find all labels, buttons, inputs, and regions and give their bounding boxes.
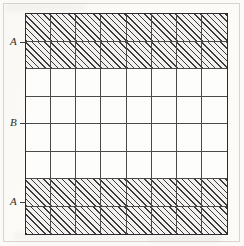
grid-cell <box>152 97 177 125</box>
label-tick-b-middle <box>20 123 26 124</box>
grid-cell <box>101 69 126 97</box>
grid-cell <box>101 152 126 180</box>
label-tick-a-top <box>20 42 26 43</box>
grid-cell <box>177 207 202 235</box>
grid-cell <box>202 69 227 97</box>
grid-cell <box>101 207 126 235</box>
grid-cell <box>177 97 202 125</box>
grid-cell <box>152 207 177 235</box>
grid-cell <box>51 97 76 125</box>
grid-cell <box>152 42 177 70</box>
grid-cell <box>26 152 51 180</box>
grid-cell <box>177 124 202 152</box>
grid-cell <box>202 207 227 235</box>
grid-cell <box>202 97 227 125</box>
grid-cell <box>127 124 152 152</box>
grid-cell <box>101 124 126 152</box>
grid-cell <box>101 42 126 70</box>
grid-cell <box>26 97 51 125</box>
grid-cell <box>127 152 152 180</box>
grid-cell <box>51 14 76 42</box>
grid-cell <box>76 42 101 70</box>
grid-cell <box>76 152 101 180</box>
grid-cell <box>76 14 101 42</box>
grid-cell <box>152 124 177 152</box>
grid-cell <box>127 97 152 125</box>
grid-cell <box>202 152 227 180</box>
grid-cell <box>152 179 177 207</box>
grid-cell <box>26 42 51 70</box>
grid-cell <box>76 124 101 152</box>
grid-cell <box>51 42 76 70</box>
hatched-grid <box>25 13 228 235</box>
grid-cell <box>51 152 76 180</box>
label-tick-a-bottom <box>20 202 26 203</box>
grid-cell <box>152 152 177 180</box>
grid-cell <box>101 179 126 207</box>
grid-cell <box>127 179 152 207</box>
grid-cell <box>51 207 76 235</box>
grid-cell <box>202 124 227 152</box>
grid-cell <box>202 42 227 70</box>
row-label-b-middle: B <box>10 117 17 128</box>
grid-cell <box>202 14 227 42</box>
grid-cell <box>202 179 227 207</box>
grid-cell <box>26 69 51 97</box>
grid-cell <box>152 14 177 42</box>
grid-cell <box>26 124 51 152</box>
row-label-a-top: A <box>10 36 17 47</box>
grid-cell <box>51 124 76 152</box>
grid-cell <box>127 207 152 235</box>
grid-cell <box>26 14 51 42</box>
grid-cell <box>76 179 101 207</box>
grid-cell <box>101 14 126 42</box>
grid-cell <box>26 179 51 207</box>
grid-cell <box>101 97 126 125</box>
figure-root: A B A <box>0 0 244 246</box>
grid-cell <box>177 42 202 70</box>
grid-cell <box>76 69 101 97</box>
grid-cell <box>177 179 202 207</box>
grid-cell <box>51 69 76 97</box>
grid-cell <box>152 69 177 97</box>
grid-cell <box>127 14 152 42</box>
grid-cell <box>177 14 202 42</box>
grid-cell <box>76 97 101 125</box>
grid-cell <box>26 207 51 235</box>
grid-cell <box>76 207 101 235</box>
grid-cell <box>127 42 152 70</box>
grid-cell <box>177 69 202 97</box>
row-label-a-bottom: A <box>10 196 17 207</box>
grid-cell <box>127 69 152 97</box>
grid-cell <box>51 179 76 207</box>
grid-cell <box>177 152 202 180</box>
